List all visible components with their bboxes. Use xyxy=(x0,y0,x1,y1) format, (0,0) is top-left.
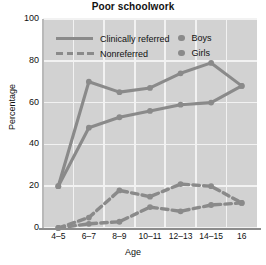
chart-legend: Clinically referredNonreferredBoysGirls xyxy=(56,33,252,63)
legend-item-2[interactable]: Boys xyxy=(178,33,212,43)
legend-dot-icon xyxy=(178,35,185,42)
data-point-s3-1 xyxy=(86,221,92,227)
y-tick-100: 100 xyxy=(5,13,39,23)
data-point-s3-5 xyxy=(208,202,214,208)
x-tick-6: 16 xyxy=(237,231,246,241)
data-point-s2-3 xyxy=(147,194,153,200)
data-point-s2-5 xyxy=(208,183,214,189)
legend-label: Girls xyxy=(192,48,211,58)
y-axis-tick-labels: 020406080100 xyxy=(0,0,39,265)
data-point-s1-6 xyxy=(239,83,245,89)
data-point-s1-1 xyxy=(86,125,92,131)
legend-dot-icon xyxy=(178,50,185,57)
data-point-s2-2 xyxy=(117,187,123,193)
data-point-s1-3 xyxy=(147,108,153,114)
data-point-s2-4 xyxy=(178,181,184,187)
data-point-s0-1 xyxy=(86,79,92,85)
data-point-s1-4 xyxy=(178,102,184,108)
data-point-s2-1 xyxy=(86,215,92,221)
data-point-s1-2 xyxy=(117,114,123,120)
data-point-s1-0 xyxy=(55,183,61,189)
series-line-0 xyxy=(58,63,241,186)
data-point-s0-2 xyxy=(117,89,123,95)
data-point-s1-5 xyxy=(208,100,214,106)
x-tick-1: 6–7 xyxy=(82,231,96,241)
data-point-s3-6 xyxy=(239,200,245,206)
data-point-s3-3 xyxy=(147,204,153,210)
x-axis-line xyxy=(39,228,261,230)
x-tick-5: 14–15 xyxy=(199,231,223,241)
legend-label: Nonreferred xyxy=(100,49,148,59)
x-axis-label: Age xyxy=(0,247,266,257)
x-axis-tick-labels: 4–56–78–910–1112–1314–1516 xyxy=(0,231,266,245)
x-tick-0: 4–5 xyxy=(51,231,65,241)
data-point-s0-4 xyxy=(178,70,184,76)
series-line-1 xyxy=(58,86,241,186)
legend-item-3[interactable]: Girls xyxy=(178,48,210,58)
legend-item-1[interactable]: Nonreferred xyxy=(56,48,148,59)
y-tick-60: 60 xyxy=(5,97,39,107)
y-tick-80: 80 xyxy=(5,55,39,65)
legend-label: Boys xyxy=(192,33,212,43)
y-tick-40: 40 xyxy=(5,138,39,148)
data-point-s3-4 xyxy=(178,208,184,214)
x-tick-3: 10–11 xyxy=(138,231,161,241)
data-point-s0-3 xyxy=(147,85,153,91)
y-axis-line xyxy=(42,19,44,228)
x-tick-4: 12–13 xyxy=(169,231,193,241)
chart-title: Poor schoolwork xyxy=(0,1,266,12)
y-tick-20: 20 xyxy=(5,180,39,190)
legend-label: Clinically referred xyxy=(100,34,170,44)
chart-figure: Poor schoolwork Percentage Age 020406080… xyxy=(0,0,266,265)
x-tick-2: 8–9 xyxy=(112,231,126,241)
legend-line-swatch xyxy=(56,48,93,59)
data-point-s3-2 xyxy=(117,219,123,225)
legend-line-swatch xyxy=(56,33,93,44)
legend-item-0[interactable]: Clinically referred xyxy=(56,33,170,44)
